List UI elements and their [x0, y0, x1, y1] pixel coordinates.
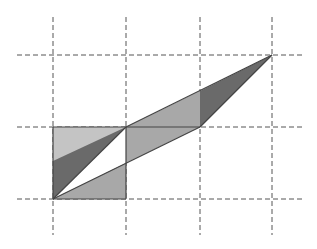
grid-dissection-diagram — [0, 0, 317, 249]
